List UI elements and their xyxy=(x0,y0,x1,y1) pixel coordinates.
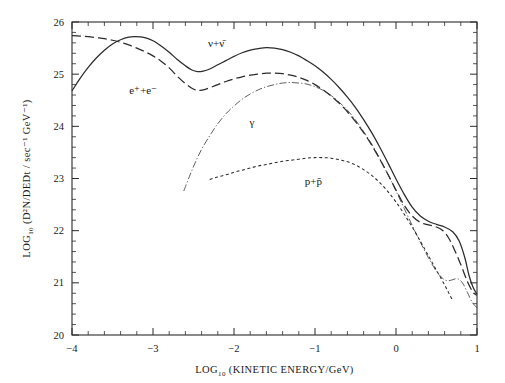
figure-container: −4−3−2−10120212223242526 ν+ν̄e⁺+e⁻γp+p̄ … xyxy=(0,0,505,383)
x-tick-label: −1 xyxy=(309,343,320,354)
y-tick-label: 22 xyxy=(54,225,65,236)
x-axis-title: LOG10 (KINETIC ENERGY/GeV) xyxy=(195,364,354,378)
curve-gamma xyxy=(184,83,477,308)
plot-border xyxy=(72,22,477,335)
curve-label-e-e-: e⁺+e⁻ xyxy=(129,84,157,96)
axis-ticks xyxy=(72,22,477,335)
y-tick-label: 24 xyxy=(54,121,65,132)
curve-e-e- xyxy=(72,36,477,296)
x-tick-label: −2 xyxy=(228,343,239,354)
axis-titles: LOG10 (KINETIC ENERGY/GeV)LOG10 (D²N/DED… xyxy=(21,99,354,377)
y-tick-label: 26 xyxy=(54,17,65,28)
curve-annotations: ν+ν̄e⁺+e⁻γp+p̄ xyxy=(129,37,322,187)
x-tick-label: −4 xyxy=(66,343,78,354)
curve-nu-nubar xyxy=(72,37,477,295)
y-tick-label: 20 xyxy=(54,330,65,341)
y-tick-label: 21 xyxy=(54,277,65,288)
axis-tick-labels: −4−3−2−10120212223242526 xyxy=(54,17,480,354)
y-axis-title: LOG10 (D²N/DEDt / sec⁻¹ GeV⁻¹) xyxy=(21,99,35,257)
data-curves xyxy=(72,36,477,308)
curve-label-p-pbar: p+p̄ xyxy=(305,175,323,187)
y-tick-label: 25 xyxy=(54,69,65,80)
curve-label-gamma: γ xyxy=(248,116,254,128)
x-tick-label: 1 xyxy=(474,343,479,354)
x-tick-label: 0 xyxy=(393,343,398,354)
y-tick-label: 23 xyxy=(54,173,65,184)
curve-label-nu-nubar: ν+ν̄ xyxy=(208,37,226,49)
plot-frame xyxy=(72,22,477,335)
curve-p-pbar xyxy=(210,158,453,301)
x-tick-label: −3 xyxy=(147,343,158,354)
scientific-line-chart: −4−3−2−10120212223242526 ν+ν̄e⁺+e⁻γp+p̄ … xyxy=(0,0,505,383)
